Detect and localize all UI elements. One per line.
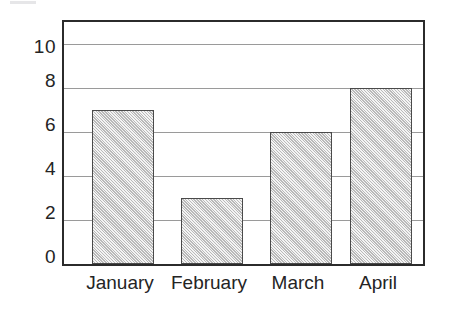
scan-artifact: [10, 1, 36, 4]
y-axis-tick-label-2: 2: [10, 203, 56, 222]
y-axis-tick-label-4: 4: [10, 159, 56, 178]
x-axis-tick-label-april: April: [318, 272, 438, 294]
y-axis-tick-label-0: 0: [10, 247, 56, 266]
plot-area: [62, 20, 425, 266]
y-axis-tick-label-8: 8: [10, 71, 56, 90]
bar-february: [181, 198, 243, 264]
bar-january: [92, 110, 154, 264]
y-axis-tick-label-6: 6: [10, 115, 56, 134]
bar-chart-figure: 0 2 4 6 8 10 January February March Apri…: [0, 0, 449, 317]
bar-april: [350, 88, 412, 264]
y-axis-tick-label-10: 10: [10, 37, 56, 56]
gridline-10: [64, 44, 423, 45]
bar-march: [270, 132, 332, 264]
